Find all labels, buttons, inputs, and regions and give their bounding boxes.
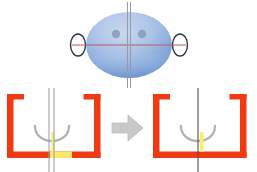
eye-right-icon (138, 30, 146, 38)
eye-left-icon (112, 30, 120, 38)
dental-arch-before (2, 88, 110, 172)
midline-highlight-after (200, 132, 204, 152)
figure-canvas (0, 0, 257, 172)
transition-arrow (108, 110, 148, 146)
arch-bracket-after (153, 94, 247, 158)
dental-arch-after (148, 88, 256, 172)
arrow-right-icon (112, 115, 143, 141)
head-top-view (66, 2, 192, 88)
